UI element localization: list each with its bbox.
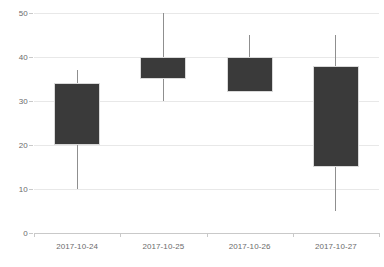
x-tick-label-2017-10-24: 2017-10-24 <box>56 242 98 251</box>
y-tick-mark-30 <box>29 101 33 102</box>
y-tick-mark-40 <box>29 57 33 58</box>
candle-body <box>227 57 273 92</box>
y-tick-label-50: 50 <box>19 9 28 18</box>
x-tick-mark-1 <box>120 233 121 237</box>
y-tick-mark-50 <box>29 13 33 14</box>
y-tick-label-10: 10 <box>19 185 28 194</box>
candle-2017-10-26[interactable] <box>227 13 273 233</box>
candle-2017-10-24[interactable] <box>54 13 100 233</box>
y-tick-label-40: 40 <box>19 53 28 62</box>
x-tick-mark-4 <box>379 233 380 237</box>
y-tick-mark-20 <box>29 145 33 146</box>
candle-body <box>54 83 100 145</box>
candle-body <box>313 66 359 167</box>
x-tick-mark-3 <box>293 233 294 237</box>
x-tick-mark-2 <box>207 233 208 237</box>
x-tick-mark-0 <box>34 233 35 237</box>
y-tick-label-20: 20 <box>19 141 28 150</box>
x-tick-label-2017-10-26: 2017-10-26 <box>229 242 271 251</box>
y-tick-label-0: 0 <box>23 229 28 238</box>
candlestick-chart: 010203040502017-10-242017-10-252017-10-2… <box>0 0 384 267</box>
y-tick-label-30: 30 <box>19 97 28 106</box>
candle-2017-10-27[interactable] <box>313 13 359 233</box>
y-tick-mark-10 <box>29 189 33 190</box>
y-tick-mark-0 <box>29 233 33 234</box>
plot-area: 010203040502017-10-242017-10-252017-10-2… <box>34 13 379 233</box>
candle-2017-10-25[interactable] <box>140 13 186 233</box>
x-tick-label-2017-10-27: 2017-10-27 <box>315 242 357 251</box>
candle-body <box>140 57 186 79</box>
x-tick-label-2017-10-25: 2017-10-25 <box>142 242 184 251</box>
